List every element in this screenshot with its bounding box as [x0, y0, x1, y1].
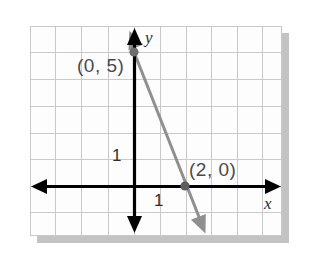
- label-axis-y: y: [145, 29, 153, 46]
- label-unit-y: 1: [112, 147, 121, 164]
- label-unit-x: 1: [154, 192, 163, 209]
- point-y-intercept: [129, 47, 138, 56]
- point-x-intercept: [180, 181, 189, 190]
- graph-figure: (0, 5) (2, 0) 1 1 y x: [0, 0, 311, 258]
- label-axis-x: x: [264, 195, 272, 212]
- coordinate-plane-svg: [0, 0, 311, 258]
- label-x-intercept: (2, 0): [189, 160, 236, 179]
- label-y-intercept: (0, 5): [77, 56, 124, 75]
